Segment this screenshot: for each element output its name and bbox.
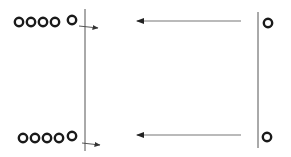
circle-group-top: [15, 16, 76, 26]
diagram: [0, 0, 291, 157]
circle-top-1: [15, 18, 23, 26]
circle-top-4: [51, 18, 59, 26]
circle-group-bottom: [19, 132, 76, 142]
circle-top-5: [68, 16, 76, 24]
right-circle-bottom: [263, 133, 271, 141]
circle-bottom-5: [68, 132, 76, 140]
row-bottom: [19, 132, 271, 145]
circle-top-3: [39, 18, 47, 26]
circle-bottom-4: [55, 134, 63, 142]
circle-bottom-1: [19, 134, 27, 142]
right-circle-top: [264, 19, 272, 27]
row-top: [15, 16, 272, 28]
short-arrow-right-top: [79, 26, 98, 28]
circle-bottom-3: [43, 134, 51, 142]
circle-top-2: [27, 18, 35, 26]
circle-bottom-2: [31, 134, 39, 142]
